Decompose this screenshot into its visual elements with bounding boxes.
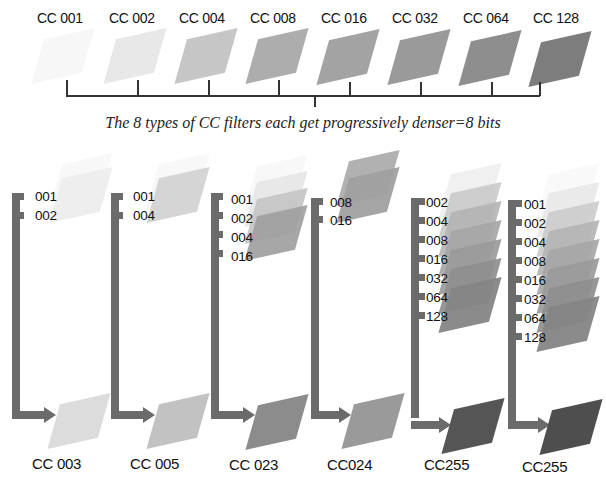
bracket-notch: [411, 312, 425, 319]
bracket-notch: [411, 274, 425, 281]
arrow-shaft: [508, 421, 540, 429]
bracket-tick: [137, 80, 139, 96]
bracket-notch: [211, 212, 223, 219]
bracket-notch: [211, 193, 223, 200]
component-label: 001: [231, 193, 253, 207]
arrow-shaft: [12, 411, 46, 419]
component-label: 004: [133, 209, 155, 223]
result-swatch: [146, 393, 209, 449]
bracket-tick: [491, 82, 493, 96]
component-label: 016: [231, 250, 253, 264]
component-label: 008: [524, 255, 546, 269]
filter-swatch-064: [458, 30, 521, 86]
component-label: 008: [426, 234, 448, 248]
component-label: 002: [231, 212, 253, 226]
result-swatch: [47, 393, 110, 449]
filter-swatch-004: [174, 28, 237, 84]
result-label: CC255: [522, 458, 567, 475]
component-label: 001: [524, 198, 546, 212]
bracket-notch: [12, 193, 24, 200]
filter-label-008: CC 008: [250, 10, 296, 26]
result-label: CC 003: [32, 455, 81, 472]
bracket-tick: [539, 82, 541, 96]
bracket-notch: [411, 217, 425, 224]
bracket-notch: [508, 257, 522, 264]
bracket-notch: [211, 231, 223, 238]
filter-swatch-032: [387, 29, 450, 85]
bracket-notch: [411, 255, 425, 262]
filter-swatch-128: [528, 31, 591, 87]
result-swatch: [539, 399, 602, 455]
arrow-shaft: [411, 421, 441, 429]
component-label: 032: [524, 293, 546, 307]
component-label: 004: [426, 215, 448, 229]
result-swatch: [341, 393, 404, 449]
bracket-notch: [311, 198, 323, 205]
component-label: 002: [35, 209, 57, 223]
bracket-notch: [411, 236, 425, 243]
bracket-vertical: [411, 198, 419, 418]
bracket-notch: [508, 295, 522, 302]
bracket-notch: [411, 198, 425, 205]
component-label: 004: [231, 231, 253, 245]
filter-label-128: CC 128: [533, 10, 579, 26]
component-label: 016: [524, 274, 546, 288]
result-label: CC 023: [229, 456, 278, 473]
filter-swatch-002: [103, 28, 166, 84]
component-label: 001: [35, 190, 57, 204]
component-label: 002: [524, 217, 546, 231]
bracket-vertical: [12, 193, 20, 418]
filter-label-032: CC 032: [392, 10, 438, 26]
component-label: 008: [330, 196, 352, 210]
bracket-vertical: [311, 198, 319, 418]
bracket-notch: [508, 276, 522, 283]
result-label: CC255: [424, 456, 469, 473]
component-label: 004: [524, 236, 546, 250]
bracket-notch: [111, 193, 123, 200]
result-swatch: [441, 398, 504, 454]
bracket-notch: [111, 212, 123, 219]
component-label: 032: [426, 272, 448, 286]
component-label: 016: [330, 214, 352, 228]
component-label: 064: [426, 291, 448, 305]
bracket-tick: [66, 80, 68, 96]
arrow-shaft: [111, 411, 145, 419]
component-label: 064: [524, 312, 546, 326]
bracket-notch: [411, 293, 425, 300]
bracket-notch: [211, 250, 223, 257]
result-swatch: [245, 394, 308, 450]
bracket-notch: [12, 212, 24, 219]
bracket-notch: [311, 216, 323, 223]
bracket-tick: [208, 80, 210, 96]
arrow-shaft: [311, 411, 341, 419]
component-label: 002: [426, 196, 448, 210]
arrow-shaft: [211, 411, 245, 419]
filter-label-001: CC 001: [37, 10, 83, 26]
caption: The 8 types of CC filters each get progr…: [0, 114, 606, 132]
bracket-notch: [508, 219, 522, 226]
filter-label-002: CC 002: [109, 10, 155, 26]
filter-label-016: CC 016: [321, 10, 367, 26]
bracket-notch: [508, 200, 522, 207]
result-label: CC 005: [130, 455, 179, 472]
component-label: 128: [426, 310, 448, 324]
filter-swatch-008: [245, 28, 308, 84]
bracket-notch: [508, 333, 522, 340]
filter-swatch-001: [31, 28, 94, 84]
result-label: CC024: [327, 456, 372, 473]
bracket-tick: [420, 82, 422, 96]
bracket-notch: [508, 314, 522, 321]
bracket-vertical: [211, 193, 219, 418]
filter-label-064: CC 064: [463, 10, 509, 26]
component-label: 016: [426, 253, 448, 267]
bracket-center-tick: [314, 95, 316, 107]
bracket-vertical: [111, 193, 119, 418]
component-label: 001: [133, 190, 155, 204]
bracket-tick: [278, 80, 280, 96]
bracket-tick: [349, 82, 351, 96]
filter-label-004: CC 004: [179, 10, 225, 26]
filter-swatch-016: [316, 29, 379, 85]
bracket-notch: [508, 238, 522, 245]
component-label: 128: [524, 331, 546, 345]
